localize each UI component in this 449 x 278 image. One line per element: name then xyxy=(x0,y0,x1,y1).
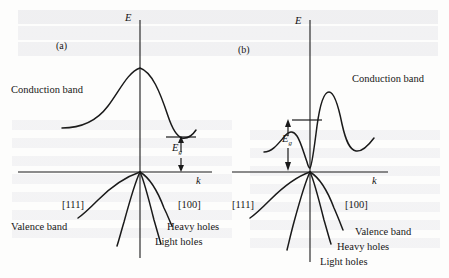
panel-b-bandgap-label-sub: g xyxy=(288,139,292,147)
band-structure-figure: (a) E k Conduction band Eg [111] [100] V… xyxy=(0,0,449,278)
panel-b-light-holes-label: Light holes xyxy=(320,256,368,267)
panel-b-label: (b) xyxy=(238,44,250,55)
panel-b-gap-arrow-up-head xyxy=(285,119,291,127)
panel-b-conduction-band-curve xyxy=(264,92,374,168)
panel-b-direction-100-label: [100] xyxy=(345,199,368,210)
panel-b-valence-band-label: Valence band xyxy=(355,226,411,237)
panel-a-bandgap-label-sub: g xyxy=(178,148,182,156)
panel-b-gap-arrow-down-head xyxy=(285,162,291,171)
panel-a-light-holes-left-curve xyxy=(117,172,140,246)
panel-b-bandgap-label: Eg xyxy=(282,133,292,147)
panel-a-heavy-holes-left-curve xyxy=(78,172,140,218)
panel-a-energy-axis-label: E xyxy=(125,12,131,23)
panel-a-valence-band-label: Valence band xyxy=(11,221,67,232)
panel-b-momentum-axis-label: k xyxy=(372,175,377,186)
panel-a-label: (a) xyxy=(56,40,67,51)
panel-b-energy-axis-label: E xyxy=(295,15,301,26)
panel-b-light-holes-left-curve xyxy=(287,172,310,250)
panel-a-heavy-holes-right-curve xyxy=(140,172,172,226)
panel-b-heavy-holes-label: Heavy holes xyxy=(337,241,389,252)
panel-a-direction-100-label: [100] xyxy=(178,199,201,210)
panel-a-momentum-axis-label: k xyxy=(196,175,201,186)
panel-b-direction-111-label: [111] xyxy=(232,199,254,210)
panel-a-gap-arrow-down-head xyxy=(178,165,184,172)
panel-a-conduction-band-curve xyxy=(62,68,196,138)
panel-a-bandgap-label: Eg xyxy=(172,142,182,156)
panel-a-direction-111-label: [111] xyxy=(62,199,84,210)
panel-a-conduction-band-label: Conduction band xyxy=(11,84,83,95)
panel-b-conduction-band-label: Conduction band xyxy=(352,73,424,84)
panel-a-light-holes-label: Light holes xyxy=(155,236,203,247)
panel-a-heavy-holes-label: Heavy holes xyxy=(167,221,219,232)
panel-b-heavy-holes-right-curve xyxy=(310,172,343,230)
